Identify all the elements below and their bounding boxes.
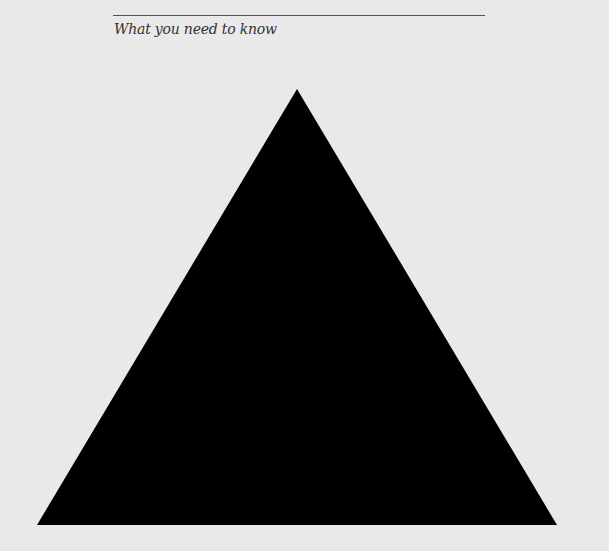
triangle-figure <box>0 0 609 551</box>
triangle-shape <box>37 89 557 525</box>
